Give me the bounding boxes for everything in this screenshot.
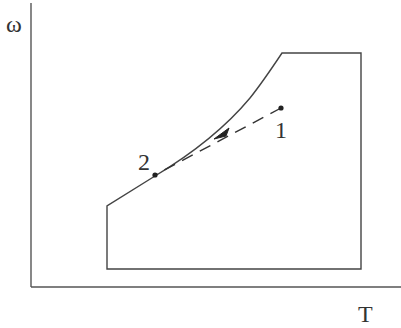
process-path <box>155 108 281 175</box>
diagram-canvas: 1 2 ω T <box>0 0 401 328</box>
y-axis-label: ω <box>6 11 22 37</box>
point-2-label: 2 <box>138 149 150 175</box>
point-2-marker <box>152 172 157 177</box>
x-axis-label: T <box>358 301 373 327</box>
point-1-marker <box>278 105 283 110</box>
point-1-label: 1 <box>275 117 287 143</box>
